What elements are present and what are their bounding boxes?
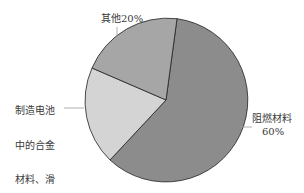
label-flame-name: 阻燃材料 (252, 113, 292, 125)
label-alloy-line: 材料、滑 (15, 174, 67, 186)
label-alloy-line: 制造电池 (15, 105, 67, 117)
label-flame-pct: 60% (262, 126, 284, 138)
label-alloy: 制造电池 中的合金 材料、滑 动轴承和 焊接剂20% (15, 82, 67, 193)
label-alloy-line: 中的合金 (15, 140, 67, 152)
label-other: 其他20% (101, 13, 143, 25)
